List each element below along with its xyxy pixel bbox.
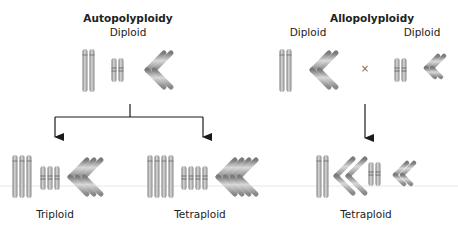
auto-tetraploid-chromosomes xyxy=(148,155,257,198)
auto-branch-arrows xyxy=(55,104,203,137)
triploid-label: Triploid xyxy=(36,209,74,220)
allo-parent1-label: Diploid xyxy=(290,27,327,38)
autopolyploidy-title: Autopolyploidy xyxy=(83,13,172,24)
allo-parent2-label: Diploid xyxy=(404,27,441,38)
auto-diploid-label: Diploid xyxy=(110,27,147,38)
diagram-canvas xyxy=(0,0,458,231)
allo-tetraploid-chromosomes xyxy=(317,155,415,198)
cross-symbol: × xyxy=(361,64,369,74)
allo-parent1-chromosomes xyxy=(280,49,337,92)
triploid-chromosomes xyxy=(13,155,102,198)
auto-tetraploid-label: Tetraploid xyxy=(174,209,226,220)
allo-parent2-chromosomes xyxy=(395,56,445,82)
allo-tetraploid-label: Tetraploid xyxy=(340,209,392,220)
allopolyploidy-title: Allopolyploidy xyxy=(330,13,414,24)
auto-diploid-chromosomes xyxy=(83,49,172,92)
